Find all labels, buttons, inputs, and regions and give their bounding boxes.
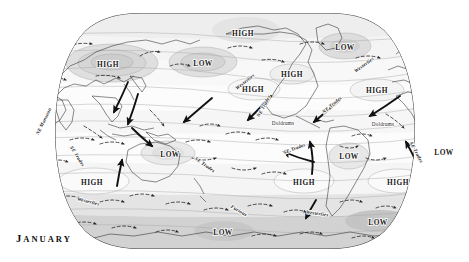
pressure-label-north-american-high: HIGH <box>281 70 303 79</box>
pressure-label-antarctic-low-east: LOW <box>368 218 388 227</box>
map-caption: JANUARY <box>16 233 72 244</box>
wind-label-doldrums-americas: Doldrums <box>272 120 294 126</box>
pressure-label-southern-africa-low: LOW <box>434 148 454 157</box>
caption-rest: ANUARY <box>23 234 72 244</box>
pressure-label-icelandic-low: LOW <box>335 43 355 52</box>
pressure-label-north-pacific-high: HIGH <box>242 85 264 94</box>
pressure-label-australian-low: LOW <box>160 150 180 159</box>
pressure-label-south-american-low: LOW <box>339 152 359 161</box>
pressure-label-antarctic-low-west: LOW <box>213 228 233 237</box>
pressure-label-south-atlantic-high: HIGH <box>387 178 409 187</box>
map-body <box>24 0 460 262</box>
pressure-label-azores-high: HIGH <box>366 86 388 95</box>
wind-label-doldrums-atlantic: Doldrums <box>372 121 394 127</box>
wind-label-ne-monsoon: NE Monsoon <box>34 107 52 137</box>
pressure-label-siberian-high: HIGH <box>97 60 119 69</box>
pressure-label-aleutian-low: LOW <box>193 59 213 68</box>
pressure-label-arctic-high: HIGH <box>232 29 254 38</box>
pressure-label-south-pacific-high: HIGH <box>293 178 315 187</box>
world-map-svg: HIGH LOW HIGH LOW HIGH HIGH HIGH LOW HIG… <box>0 0 469 262</box>
climate-map-figure: HIGH LOW HIGH LOW HIGH HIGH HIGH LOW HIG… <box>0 0 469 262</box>
pressure-label-south-indian-high: HIGH <box>81 178 103 187</box>
